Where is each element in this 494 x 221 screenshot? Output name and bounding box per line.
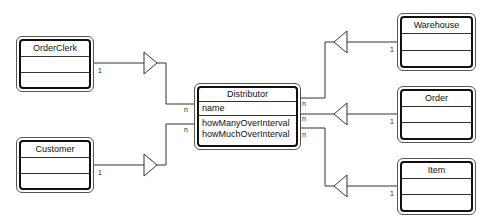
multiplicity-order: 1 <box>390 118 394 126</box>
class-name: Warehouse <box>402 18 471 34</box>
multiplicity-customer: 1 <box>98 169 102 177</box>
association-warehouse <box>300 42 334 98</box>
class-customer[interactable]: Customer <box>16 137 94 193</box>
multiplicity-orderclerk: 1 <box>98 67 102 75</box>
class-operations <box>402 123 471 138</box>
multiplicity-item: 1 <box>390 190 394 198</box>
operation-how-much-over-interval: howMuchOverInterval <box>202 129 296 140</box>
triangle-marker-icon <box>334 175 347 197</box>
multiplicity-distributor-orderclerk: n <box>184 106 188 114</box>
class-operations <box>402 195 471 210</box>
triangle-marker-icon <box>334 103 347 125</box>
class-name: Item <box>402 163 471 179</box>
class-operations: howManyOverInterval howMuchOverInterval <box>199 116 296 145</box>
multiplicity-distributor-item: n <box>302 131 306 139</box>
multiplicity-distributor-order: n <box>302 115 306 123</box>
attribute-name: name <box>202 102 296 115</box>
class-attributes <box>402 107 471 123</box>
class-orderclerk[interactable]: OrderClerk <box>16 36 94 92</box>
class-name: Distributor <box>199 88 296 102</box>
triangle-marker-icon <box>334 31 347 53</box>
multiplicity-distributor-warehouse: n <box>302 100 306 108</box>
uml-diagram: OrderClerk Customer Distributor name how… <box>0 0 494 221</box>
class-operations <box>21 174 89 189</box>
class-attributes: name <box>199 102 296 116</box>
operation-how-many-over-interval: howManyOverInterval <box>202 118 296 129</box>
class-attributes <box>21 57 89 73</box>
class-attributes <box>21 158 89 174</box>
class-distributor[interactable]: Distributor name howManyOverInterval how… <box>194 83 301 150</box>
multiplicity-warehouse: 1 <box>390 46 394 54</box>
class-order[interactable]: Order <box>397 86 476 143</box>
multiplicity-distributor-customer: n <box>184 126 188 134</box>
class-name: Order <box>402 91 471 107</box>
class-attributes <box>402 34 471 51</box>
class-name: Customer <box>21 142 89 158</box>
class-operations <box>21 73 89 88</box>
class-operations <box>402 51 471 67</box>
class-warehouse[interactable]: Warehouse <box>397 13 476 71</box>
class-attributes <box>402 179 471 195</box>
triangle-marker-icon <box>144 154 157 176</box>
triangle-marker-icon <box>144 52 157 74</box>
class-item[interactable]: Item <box>397 158 476 215</box>
class-name: OrderClerk <box>21 41 89 57</box>
